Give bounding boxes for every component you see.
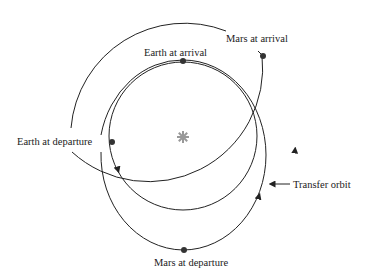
transfer-orbit-upper-left (101, 60, 183, 135)
mars-orbit-lower-arc (72, 55, 263, 182)
label-transfer-orbit: Transfer orbit (293, 179, 351, 190)
diagram-canvas: Mars at arrival Earth at arrival Earth a… (0, 0, 369, 278)
transfer-orbit-diagram: Mars at arrival Earth at arrival Earth a… (0, 0, 369, 278)
label-earth-arrival: Earth at arrival (144, 47, 207, 58)
mars-departure-dot (181, 247, 187, 253)
mars-orbit-upper-arc (71, 23, 226, 128)
earth-departure-dot (109, 139, 115, 145)
sun-icon (177, 131, 189, 143)
earth-arrival-dot (180, 58, 186, 64)
label-mars-departure: Mars at departure (154, 257, 228, 268)
label-earth-departure: Earth at departure (17, 136, 93, 147)
label-mars-arrival: Mars at arrival (226, 33, 288, 44)
mars-arrival-dot (260, 53, 266, 59)
transfer-orbit-right (183, 60, 266, 250)
transfer-orbit-lower (101, 152, 183, 250)
mars-orbit-direction-arrow-icon (294, 150, 295, 160)
